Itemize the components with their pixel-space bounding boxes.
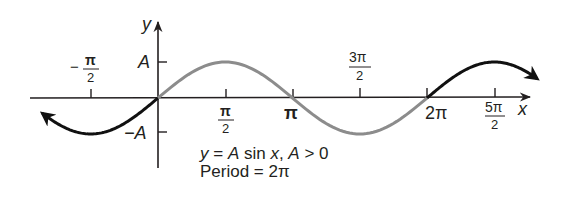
tick-label-5pi-half-num: 5π [485,99,503,115]
tick-label-negA: −A [124,123,147,143]
tick-label-pi-half-num: π [220,103,231,119]
sine-graph: y A −A − π 2 π 2 π 3π 2 2π 5π 2 x y = A … [0,0,564,197]
caption-sin: sin [239,144,270,163]
caption-condition: > 0 [300,144,329,163]
caption-y: y [200,144,209,163]
tick-label-A: A [137,52,150,72]
curve-right-extension [427,62,537,98]
caption-x: x [270,144,279,163]
x-axis-label: x [517,99,528,119]
tick-label-3pi-half-den: 2 [356,68,363,83]
caption-eq: = [209,144,228,163]
tick-label-5pi-half-den: 2 [491,117,498,132]
y-axis-label: y [140,14,152,34]
caption-comma: , [279,144,288,163]
caption: y = A sin x, A > 0 Period = 2π [200,145,329,181]
tick-label-pi-half-den: 2 [222,121,229,136]
tick-label-neg-sign: − [70,58,79,75]
caption-period: Period = 2π [200,163,329,181]
caption-equation: y = A sin x, A > 0 [200,145,329,163]
x-axis [30,97,530,98]
tick-label-3pi-half-num: 3π [349,49,367,65]
caption-A: A [228,144,239,163]
tick-label-neg-pi-half-num: π [85,52,96,68]
tick-label-pi: π [284,103,298,123]
caption-A2: A [288,144,299,163]
tick-label-neg-pi-half-den: 2 [87,70,94,85]
tick-label-2pi: 2π [425,103,447,123]
